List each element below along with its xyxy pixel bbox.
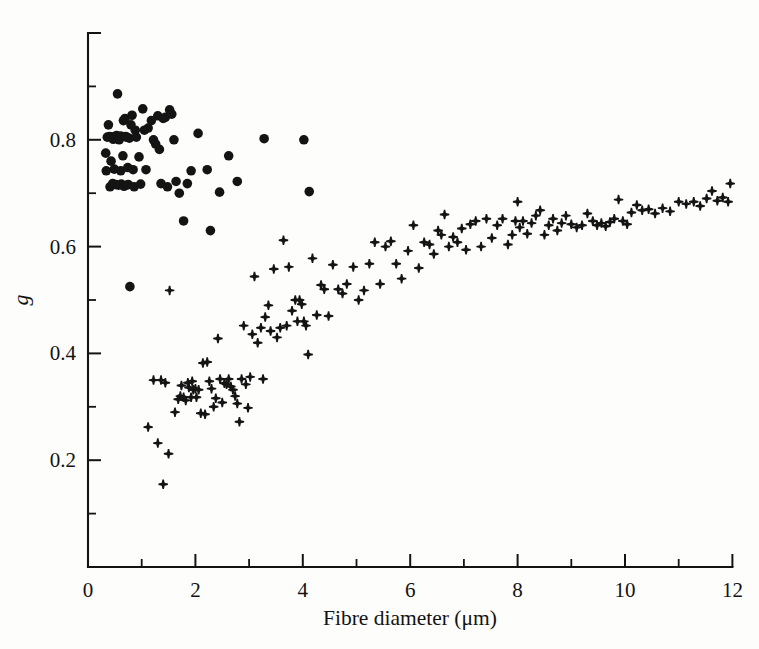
data-point-circle — [183, 179, 193, 189]
data-point-circle — [174, 188, 184, 198]
tick-labels-group: 0.20.40.60.8024681012 — [50, 128, 743, 602]
data-point-plus — [213, 334, 223, 344]
data-point-plus — [264, 301, 274, 311]
data-point-plus — [282, 321, 292, 331]
data-point-plus — [476, 242, 486, 252]
data-point-plus — [275, 323, 285, 333]
data-point-plus — [627, 208, 637, 218]
data-point-plus — [235, 417, 245, 427]
data-point-circle — [206, 226, 216, 236]
plot-canvas: 0.20.40.60.8024681012 Fibre diameter (μm… — [0, 0, 759, 649]
data-point-circle — [193, 129, 203, 139]
data-point-plus — [233, 399, 243, 409]
data-point-circle — [259, 134, 269, 144]
data-point-plus — [409, 220, 419, 230]
data-point-plus — [414, 263, 424, 273]
y-tick-label-0.2: 0.2 — [50, 448, 76, 472]
x-tick-label-2: 2 — [190, 578, 201, 602]
data-point-circle — [171, 177, 181, 187]
data-point-circle — [224, 151, 234, 161]
data-point-circle — [304, 187, 314, 197]
data-point-plus — [487, 233, 497, 243]
data-point-circle — [232, 177, 242, 187]
data-point-plus — [444, 242, 454, 252]
data-point-circle — [155, 145, 165, 155]
data-point-plus — [209, 402, 219, 412]
data-point-plus — [287, 306, 297, 316]
data-point-plus — [527, 218, 537, 228]
data-point-circle — [179, 216, 189, 226]
data-point-plus — [256, 323, 266, 333]
data-point-plus — [170, 407, 180, 417]
data-point-plus — [165, 286, 175, 296]
data-point-plus — [461, 245, 471, 255]
data-point-circle — [163, 182, 173, 192]
data-point-plus — [250, 272, 260, 282]
series-filled-circle-series — [101, 89, 314, 291]
data-point-plus — [557, 218, 567, 228]
x-tick-label-4: 4 — [298, 578, 309, 602]
data-point-circle — [125, 282, 135, 292]
data-markers-group — [101, 89, 735, 489]
y-axis-title: g — [8, 295, 33, 306]
data-point-plus — [681, 199, 691, 209]
data-point-plus — [397, 274, 407, 284]
x-axis-title: Fibre diameter (μm) — [323, 606, 497, 630]
tick-marks-group — [88, 33, 732, 567]
data-point-plus — [272, 333, 282, 343]
data-point-plus — [674, 197, 684, 207]
y-tick-label-0.6: 0.6 — [50, 235, 76, 259]
data-point-circle — [186, 166, 196, 176]
data-point-plus — [386, 237, 396, 247]
data-point-plus — [207, 384, 217, 394]
data-point-plus — [248, 329, 257, 339]
data-point-circle — [167, 109, 177, 119]
data-point-plus — [328, 260, 338, 270]
data-point-circle — [202, 165, 212, 175]
data-point-plus — [503, 240, 513, 250]
data-point-circle — [128, 165, 138, 175]
data-point-plus — [583, 209, 593, 219]
data-point-plus — [342, 279, 352, 289]
data-point-plus — [482, 214, 492, 224]
data-point-plus — [269, 264, 279, 274]
data-point-plus — [354, 295, 364, 305]
x-tick-label-8: 8 — [512, 578, 523, 602]
data-point-plus — [153, 438, 163, 448]
data-point-plus — [239, 321, 249, 331]
scatter-plot-figure: 0.20.40.60.8024681012 Fibre diameter (μm… — [0, 0, 759, 649]
data-point-plus — [349, 262, 359, 272]
data-point-circle — [169, 135, 179, 145]
data-point-circle — [127, 110, 137, 120]
data-point-plus — [284, 262, 294, 272]
x-tick-label-12: 12 — [722, 578, 743, 602]
data-point-plus — [279, 235, 289, 245]
data-point-plus — [614, 195, 624, 205]
data-point-plus — [312, 310, 322, 320]
data-point-plus — [726, 179, 736, 189]
data-point-plus — [365, 259, 375, 269]
data-point-plus — [429, 249, 439, 258]
data-point-circle — [134, 152, 144, 162]
data-point-plus — [702, 194, 712, 204]
data-point-plus — [245, 372, 255, 382]
data-point-plus — [266, 326, 276, 336]
data-point-circle — [113, 89, 123, 99]
data-point-plus — [230, 391, 240, 401]
data-point-plus — [370, 238, 380, 248]
data-point-plus — [253, 338, 262, 348]
x-tick-label-10: 10 — [615, 578, 636, 602]
data-point-circle — [132, 132, 142, 142]
data-point-plus — [375, 279, 385, 289]
data-point-plus — [391, 259, 401, 269]
data-point-plus — [513, 197, 523, 207]
data-point-plus — [324, 311, 334, 321]
x-tick-label-6: 6 — [405, 578, 416, 602]
data-point-plus — [403, 246, 413, 256]
data-point-plus — [553, 226, 563, 236]
data-point-circle — [138, 104, 148, 114]
data-point-circle — [136, 179, 146, 189]
data-point-circle — [101, 166, 111, 176]
data-point-plus — [381, 242, 391, 252]
data-point-plus — [143, 422, 153, 432]
